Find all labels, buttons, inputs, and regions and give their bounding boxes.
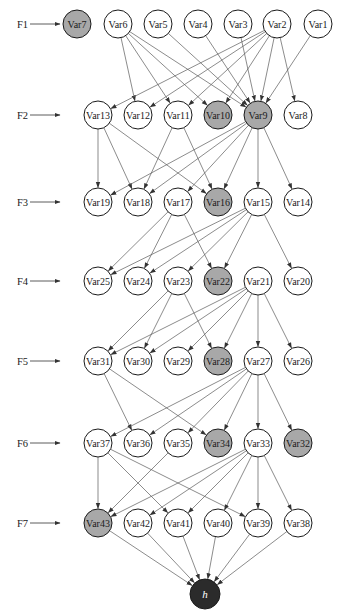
- node-var15: Var15: [244, 188, 272, 216]
- node-label: Var1: [309, 19, 328, 30]
- node-var22: Var22: [204, 267, 232, 295]
- node-label: Var10: [206, 110, 230, 121]
- edge-var6-to-var10: [128, 33, 207, 105]
- node-label: Var26: [286, 356, 310, 367]
- edge-var11-to-var18: [144, 128, 172, 189]
- node-label: Var8: [289, 110, 308, 121]
- node-label: Var39: [246, 518, 270, 529]
- level-f1: F1: [17, 19, 60, 30]
- node-var16: Var16: [204, 188, 232, 216]
- edge-var6-to-var11: [126, 36, 170, 103]
- node-var28: Var28: [204, 347, 232, 375]
- level-labels-layer: F1F2F3F4F5F6F7: [17, 19, 60, 529]
- edge-var27-to-var36: [150, 369, 246, 435]
- level-f6: F6: [17, 438, 60, 449]
- node-label: Var2: [268, 19, 287, 30]
- edge-var33-to-var41: [188, 453, 248, 513]
- node-var20: Var20: [284, 267, 312, 295]
- node-label: Var36: [126, 438, 150, 449]
- node-var40: Var40: [204, 509, 232, 537]
- level-label: F7: [17, 518, 28, 529]
- edge-var21-to-var30: [150, 289, 246, 353]
- node-var26: Var26: [284, 347, 312, 375]
- node-label: Var30: [126, 356, 150, 367]
- edge-var38-to-h: [217, 532, 287, 585]
- node-label: Var5: [149, 19, 168, 30]
- node-var24: Var24: [124, 267, 152, 295]
- edge-var9-to-var18: [150, 123, 247, 193]
- edge-var9-to-var17: [188, 125, 249, 191]
- node-var23: Var23: [164, 267, 192, 295]
- node-label: Var23: [166, 276, 190, 287]
- node-var7: Var7: [63, 10, 91, 38]
- node-var2: Var2: [263, 10, 291, 38]
- node-label: Var16: [206, 197, 230, 208]
- edge-var17-to-var24: [145, 214, 172, 268]
- node-var36: Var36: [124, 429, 152, 457]
- node-label: Var37: [86, 438, 110, 449]
- node-label: Var19: [86, 197, 110, 208]
- edge-var9-to-var14: [264, 128, 292, 189]
- node-var11: Var11: [164, 101, 192, 129]
- node-label: Var12: [126, 110, 150, 121]
- edge-var39-to-h: [214, 534, 249, 581]
- edge-var15-to-var25: [111, 208, 245, 274]
- level-label: F2: [17, 110, 28, 121]
- edge-var15-to-var20: [264, 214, 291, 268]
- level-label: F4: [17, 276, 29, 287]
- edge-var17-to-var25: [108, 212, 168, 271]
- edge-var27-to-var35: [188, 371, 248, 433]
- edge-var2-to-var8: [280, 38, 295, 101]
- node-label: Var21: [246, 276, 270, 287]
- nodes-layer: Var7Var6Var5Var4Var3Var2Var1Var13Var12Va…: [63, 10, 332, 609]
- edge-var21-to-var26: [264, 294, 291, 349]
- node-var18: Var18: [124, 188, 152, 216]
- node-var43: Var43: [84, 509, 112, 537]
- node-var21: Var21: [244, 267, 272, 295]
- node-label: Var34: [206, 438, 230, 449]
- node-var41: Var41: [164, 509, 192, 537]
- node-label: Var42: [126, 518, 150, 529]
- node-var1: Var1: [304, 10, 332, 38]
- node-var12: Var12: [124, 101, 152, 129]
- node-var8: Var8: [284, 101, 312, 129]
- edge-var15-to-var24: [150, 210, 246, 273]
- edge-var15-to-var23: [188, 212, 248, 271]
- node-var4: Var4: [184, 10, 212, 38]
- node-var25: Var25: [84, 267, 112, 295]
- edge-var40-to-h: [208, 537, 216, 579]
- node-label: Var3: [229, 19, 248, 30]
- node-label: Var25: [86, 276, 110, 287]
- node-var34: Var34: [204, 429, 232, 457]
- node-label: Var40: [206, 518, 230, 529]
- node-var5: Var5: [144, 10, 172, 38]
- node-label: Var41: [166, 518, 190, 529]
- node-label: Var4: [189, 19, 208, 30]
- node-label: Var27: [246, 356, 270, 367]
- edge-var33-to-var40: [224, 456, 251, 511]
- node-label: Var18: [126, 197, 150, 208]
- node-label: Var31: [86, 356, 110, 367]
- edge-var33-to-var42: [150, 451, 246, 515]
- node-var31: Var31: [84, 347, 112, 375]
- edge-var23-to-var31: [108, 291, 168, 351]
- node-label: Var38: [286, 518, 310, 529]
- sink-label: h: [202, 588, 208, 600]
- node-label: Var17: [166, 197, 190, 208]
- edge-var2-to-var9: [261, 38, 274, 101]
- edge-var6-to-var12: [121, 38, 135, 101]
- edge-var33-to-var38: [264, 456, 291, 511]
- edge-var31-to-var36: [104, 374, 132, 430]
- node-label: Var7: [68, 19, 87, 30]
- node-var19: Var19: [84, 188, 112, 216]
- edge-var27-to-var37: [111, 367, 246, 436]
- node-var3: Var3: [224, 10, 252, 38]
- node-label: Var14: [286, 197, 310, 208]
- node-var14: Var14: [284, 188, 312, 216]
- node-var27: Var27: [244, 347, 272, 375]
- node-label: Var32: [286, 438, 310, 449]
- level-f5: F5: [17, 356, 60, 367]
- node-label: Var43: [86, 518, 110, 529]
- node-label: Var15: [246, 197, 270, 208]
- node-label: Var29: [166, 356, 190, 367]
